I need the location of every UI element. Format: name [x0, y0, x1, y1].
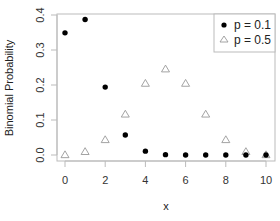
- circle-point: [183, 152, 188, 157]
- circle-point: [123, 132, 128, 137]
- y-tick-label: 0.2: [34, 77, 46, 92]
- circle-point: [243, 152, 248, 157]
- circle-point: [203, 152, 208, 157]
- y-tick-label: 0.1: [34, 112, 46, 127]
- x-tick-label: 8: [223, 174, 229, 186]
- x-tick-label: 4: [142, 174, 148, 186]
- x-tick-label: 6: [183, 174, 189, 186]
- y-tick-label: 0.4: [34, 7, 46, 22]
- y-tick-label: 0.3: [34, 42, 46, 57]
- triangle-point: [121, 110, 129, 117]
- filled-circle-icon: [221, 22, 226, 27]
- triangle-point: [182, 79, 190, 86]
- binomial-chart: 0.00.10.20.30.4 0246810 x Binomial Proba…: [0, 0, 280, 221]
- x-tick-label: 2: [102, 174, 108, 186]
- triangle-point: [162, 65, 170, 72]
- y-tick-label: 0.0: [34, 147, 46, 162]
- triangle-point: [202, 110, 210, 117]
- triangle-point: [141, 79, 149, 86]
- x-tick-label: 0: [62, 174, 68, 186]
- circle-point: [143, 148, 148, 153]
- x-axis: 0246810: [62, 161, 272, 186]
- circle-point: [62, 30, 67, 35]
- circle-point: [163, 152, 168, 157]
- y-axis: 0.00.10.20.30.4: [34, 7, 57, 162]
- legend: p = 0.1 p = 0.5: [214, 14, 275, 52]
- circle-point: [263, 152, 268, 157]
- circle-point: [223, 152, 228, 157]
- legend-label-p01: p = 0.1: [234, 18, 271, 32]
- triangle-point: [61, 151, 69, 158]
- triangle-point: [222, 136, 230, 143]
- x-tick-label: 10: [260, 174, 272, 186]
- legend-label-p05: p = 0.5: [234, 33, 271, 47]
- circle-point: [82, 17, 87, 22]
- x-axis-title: x: [163, 200, 169, 212]
- triangle-point: [101, 136, 109, 143]
- y-axis-title: Binomial Probability: [3, 39, 15, 136]
- circle-point: [103, 84, 108, 89]
- triangle-point: [81, 148, 89, 155]
